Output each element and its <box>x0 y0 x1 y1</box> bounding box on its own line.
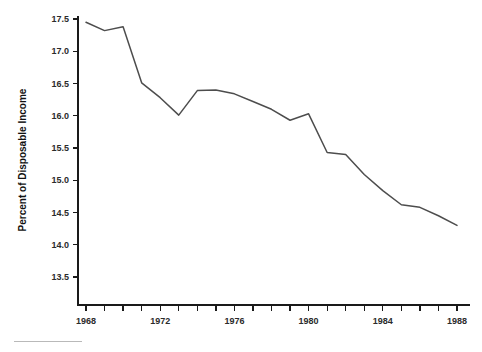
x-axis-ticks <box>86 305 457 311</box>
x-axis-tick-label: 1976 <box>224 316 244 326</box>
y-axis-tick-label: 16.5 <box>51 79 69 89</box>
footer-divider <box>14 341 82 342</box>
y-axis-tick-label: 16.0 <box>51 111 69 121</box>
y-axis-tick-label: 14.5 <box>51 208 69 218</box>
axis-frame <box>78 16 470 305</box>
x-axis-tick-label: 1972 <box>150 316 170 326</box>
x-axis-tick-labels: 196819721976198019841988 <box>76 316 467 326</box>
y-axis-tick-label: 17.0 <box>51 46 69 56</box>
chart-container: 13.514.014.515.015.516.016.517.017.5 196… <box>0 0 482 352</box>
y-axis-tick-label: 13.5 <box>51 272 69 282</box>
x-axis-tick-label: 1980 <box>299 316 319 326</box>
y-axis-tick-labels: 13.514.014.515.015.516.016.517.017.5 <box>51 14 69 282</box>
x-axis-tick-label: 1988 <box>447 316 467 326</box>
y-axis-tick-label: 17.5 <box>51 14 69 24</box>
y-axis-tick-label: 14.0 <box>51 240 69 250</box>
line-chart: 13.514.014.515.015.516.016.517.017.5 196… <box>0 0 482 352</box>
x-axis-tick-label: 1968 <box>76 316 96 326</box>
y-axis-tick-label: 15.5 <box>51 143 69 153</box>
series-line-disposable-income <box>86 22 457 225</box>
y-axis-tick-label: 15.0 <box>51 175 69 185</box>
x-axis-tick-label: 1984 <box>373 316 393 326</box>
axis-lines <box>78 16 470 305</box>
data-series-group <box>86 22 457 225</box>
y-axis-title: Percent of Disposable Income <box>17 88 28 231</box>
